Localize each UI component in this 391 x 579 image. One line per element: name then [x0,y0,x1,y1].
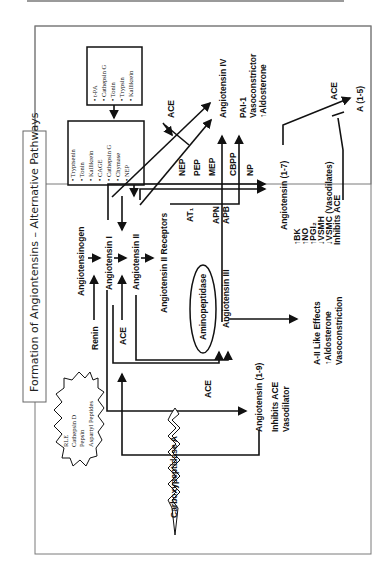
label-cbpp: CBPP [228,152,238,176]
label-vasoconstrictor: Vasoconstrictor [248,53,258,118]
ang3-effects: A-II Like Effects ↑Aldosterone Vasoconst… [312,297,344,366]
label-inhibits-ace: Inhibits ACE [270,381,280,432]
label-angiotensin-i: Angiotensin I [104,236,114,290]
arrow-ang19-back [122,374,259,455]
svg-text:Inhibits ACE: Inhibits ACE [332,194,342,245]
svg-text:• Kallikrein: • Kallikrein [127,70,134,101]
label-vasodilator: Vasodilator [281,385,291,432]
label-aminopeptidase: Aminopeptidase [198,274,208,340]
svg-text:Pepsin: Pepsin [78,429,85,447]
svg-text:Cathepsin D: Cathepsin D [70,414,77,447]
label-apb: APB [221,206,231,224]
svg-text:↑Aldosterone: ↑Aldosterone [323,311,333,365]
label-pep: PEP [192,159,202,176]
label-a-1-5: A (1-5) [355,86,365,112]
svg-text:• t-PA: • t-PA [91,85,98,101]
svg-text:• Trypsin: • Trypsin [118,76,125,101]
label-renin: Renin [90,326,100,350]
svg-text:A-II Like Effects: A-II Like Effects [312,301,322,365]
angiotensin-pathway-diagram: Formation of Angiontensins – Alternative… [0,0,391,579]
label-ace-right: ACE [329,82,339,100]
inhibit-bar [332,112,344,116]
svg-text:• Tonin: • Tonin [109,81,116,101]
ang17-effects: ↑BK ↑NO ↑PGI₂ ↓VSMH ↓VSMC (Vasodilates) … [292,161,342,245]
svg-text:• CAGE: • CAGE [96,159,103,181]
label-angiotensin-1-9: Angiotensin (1-9) [254,362,264,432]
svg-text:• Cathepsin G: • Cathepsin G [105,144,112,181]
svg-text:• Tryptsenin: • Tryptsenin [69,149,76,181]
svg-text:Aspartyl Peptides: Aspartyl Peptides [87,400,94,447]
label-angiotensinogen: Angiotensinogen [76,227,86,296]
svg-text:• NEP: • NEP [123,164,130,181]
label-ace-top: ACE [166,100,176,118]
label-pai-1: PAI-1 [238,97,248,118]
label-carboxypeptidase-a: Carboxypeptidase A [169,436,179,518]
svg-text:RLE: RLE [62,435,69,447]
label-ace-lower: ACE [203,380,213,398]
arrow-ang17-to-a15 [283,98,350,145]
protease-starburst [54,372,104,466]
label-nep: NEP [177,158,187,176]
svg-text:• Kallikrein: • Kallikrein [87,150,94,181]
label-aldosterone-up: ↑Aldosterone [258,64,268,118]
diagram-title: Formation of Angiontensins – Alternative… [28,112,41,392]
label-angiotensin-iv: Angiotensin IV [218,58,228,118]
svg-text:• Tonin: • Tonin [78,161,85,181]
label-ace: ACE [118,327,128,345]
label-angiotensin-ii: Angiotensin II [131,234,141,290]
arrow-ang2-right [140,189,265,200]
label-angiotensin-ii-receptors: Angiotensin II Receptors [159,213,169,313]
label-apn: APN [211,206,221,224]
svg-text:• Chymase: • Chymase [114,153,121,181]
label-np: NP [245,164,255,176]
label-at1: AT₁ [185,207,195,222]
label-mep: MEP [207,157,217,176]
label-angiotensin-1-7: Angiotensin (1-7) [279,160,289,230]
svg-text:• Cathepsin G: • Cathepsin G [100,64,107,101]
svg-text:Vasoconstriction: Vasoconstriction [334,297,344,366]
inhibit-line [338,118,343,200]
